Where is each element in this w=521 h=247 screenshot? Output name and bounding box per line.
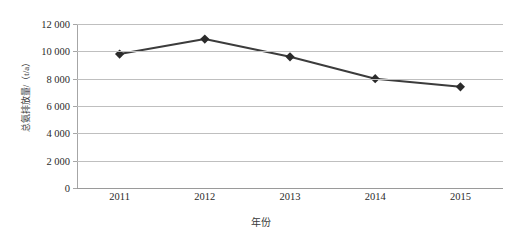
y-tick-mark (73, 106, 77, 107)
chart-screenshot: 总氨排放量/（t/a） 02 0004 0006 0008 00010 0001… (0, 0, 521, 247)
y-tick-mark (73, 161, 77, 162)
y-tick-label: 2 000 (18, 155, 70, 166)
gridline (77, 188, 503, 189)
plot-area (77, 24, 503, 188)
gridline (77, 133, 503, 134)
y-tick-label: 8 000 (18, 73, 70, 84)
y-tick-label: 12 000 (18, 19, 70, 30)
x-axis-title: 年份 (0, 214, 521, 229)
y-tick-label: 0 (18, 183, 70, 194)
y-tick-label: 6 000 (18, 101, 70, 112)
y-axis-tick-labels: 02 0004 0006 0008 00010 00012 000 (18, 0, 70, 247)
data-point-marker (456, 82, 465, 91)
gridline (77, 79, 503, 80)
data-point-marker (200, 34, 209, 43)
x-tick-label: 2015 (450, 191, 471, 202)
gridline (77, 106, 503, 107)
y-tick-label: 10 000 (18, 46, 70, 57)
x-axis-tick-labels: 20112012201320142015 (77, 191, 503, 209)
y-tick-mark (73, 51, 77, 52)
gridline (77, 24, 503, 25)
series-line (120, 39, 461, 87)
y-tick-mark (73, 188, 77, 189)
gridline (77, 161, 503, 162)
y-tick-mark (73, 79, 77, 80)
data-point-marker (285, 52, 294, 61)
x-tick-label: 2014 (365, 191, 386, 202)
y-tick-mark (73, 24, 77, 25)
y-tick-mark (73, 133, 77, 134)
x-tick-label: 2013 (280, 191, 301, 202)
gridline (77, 51, 503, 52)
x-tick-label: 2012 (194, 191, 215, 202)
x-tick-label: 2011 (109, 191, 130, 202)
y-tick-label: 4 000 (18, 128, 70, 139)
